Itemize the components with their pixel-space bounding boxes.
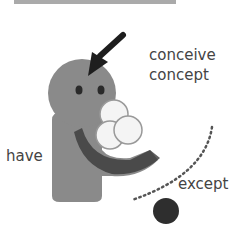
label-conceive: conceive <box>149 46 216 64</box>
left-eye-icon <box>76 86 83 95</box>
label-except: except <box>178 175 228 193</box>
right-eye-icon <box>98 86 105 95</box>
diagram-figure <box>0 0 244 228</box>
label-have: have <box>6 147 43 165</box>
concept-balls <box>96 100 142 149</box>
except-ball-icon <box>153 198 179 224</box>
label-concept: concept <box>149 66 209 84</box>
